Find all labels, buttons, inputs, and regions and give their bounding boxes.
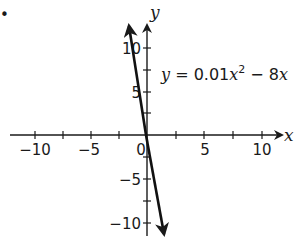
x-axis: x −10 −5 0 5 10 (10, 125, 294, 159)
graph: • x −10 −5 0 5 10 (0, 0, 301, 238)
y-tick-label-neg5: −5 (119, 171, 141, 189)
equation-eq: = 0.01 (170, 65, 229, 84)
y-tick-label-neg10: −10 (109, 215, 141, 233)
x-tick-label-5: 5 (200, 141, 210, 159)
bullet-mark: • (0, 6, 9, 24)
x-tick-label-neg5: −5 (78, 141, 100, 159)
y-axis-label: y (149, 2, 160, 22)
equation-exp: 2 (238, 63, 245, 76)
equation-x2: x (279, 65, 288, 84)
equation-x: x (229, 65, 238, 84)
y-axis: y 10 5 −5 −10 (109, 2, 160, 236)
equation-rest: − 8 (245, 65, 279, 84)
equation-label: y = 0.01x2 − 8x (160, 63, 288, 84)
x-tick-label-neg10: −10 (19, 141, 51, 159)
x-tick-label-0: 0 (136, 141, 146, 159)
x-axis-label: x (284, 125, 294, 145)
x-tick-label-10: 10 (252, 141, 271, 159)
